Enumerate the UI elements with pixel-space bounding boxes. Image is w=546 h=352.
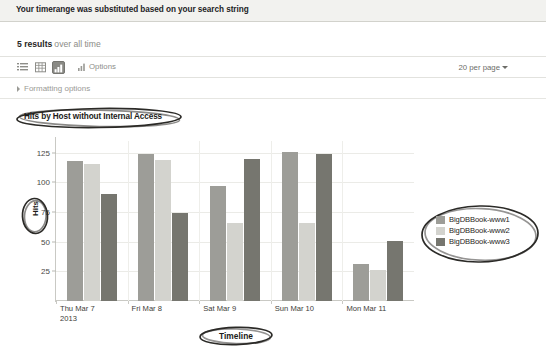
formatting-options-toggle[interactable]: Formatting options bbox=[17, 84, 90, 93]
y-tick-label: 25 bbox=[41, 267, 50, 276]
legend-item[interactable]: BigDBBook-www2 bbox=[436, 225, 510, 236]
list-view-icon[interactable] bbox=[16, 61, 29, 74]
results-count: 5 results bbox=[17, 39, 52, 49]
x-axis-label-cell: Fri Mar 8 bbox=[128, 304, 200, 323]
bar[interactable] bbox=[370, 270, 386, 301]
banner-message: Your timerange was substituted based on … bbox=[16, 5, 249, 14]
bar[interactable] bbox=[84, 164, 100, 301]
page-title: Hits by Host without Internal Access bbox=[24, 112, 162, 121]
bar[interactable] bbox=[138, 154, 154, 301]
options-button[interactable]: Options bbox=[78, 62, 116, 71]
legend-swatch bbox=[436, 238, 445, 246]
timerange-banner: Your timerange was substituted based on … bbox=[0, 0, 546, 22]
bar[interactable] bbox=[67, 161, 83, 301]
bar[interactable] bbox=[210, 186, 226, 301]
bar-chart-plot: 255075100125 bbox=[56, 141, 414, 301]
bar-group bbox=[342, 141, 414, 301]
formatting-divider bbox=[0, 98, 546, 99]
x-axis-label: Thu Mar 7 2013 bbox=[60, 304, 128, 323]
legend-swatch bbox=[436, 216, 445, 224]
x-axis-label: Mon Mar 11 bbox=[346, 304, 414, 314]
bar[interactable] bbox=[387, 241, 403, 301]
x-axis-label-cell: Mon Mar 11 bbox=[342, 304, 414, 323]
x-axis-label: Sat Mar 9 bbox=[203, 304, 271, 314]
bar[interactable] bbox=[155, 160, 171, 301]
table-view-icon[interactable] bbox=[34, 61, 47, 74]
y-tick-label: 100 bbox=[37, 178, 50, 187]
bar[interactable] bbox=[282, 152, 298, 301]
chevron-down-icon bbox=[502, 66, 508, 69]
formatting-options-label: Formatting options bbox=[24, 84, 90, 93]
chart-view-icon[interactable] bbox=[52, 61, 65, 74]
per-page-label: 20 per page bbox=[458, 63, 500, 72]
chart-legend-annotation: BigDBBook-www1BigDBBook-www2BigDBBook-ww… bbox=[419, 201, 541, 267]
x-axis-label: Sun Mar 10 bbox=[275, 304, 343, 314]
xaxis-title-annotation: Timeline bbox=[196, 326, 276, 346]
bar-group bbox=[271, 141, 343, 301]
x-axis-label-cell: Thu Mar 7 2013 bbox=[56, 304, 128, 323]
x-axis-label-cell: Sun Mar 10 bbox=[271, 304, 343, 323]
x-axis-label: Fri Mar 8 bbox=[132, 304, 200, 314]
y-tick-label: 50 bbox=[41, 237, 50, 246]
bar-group bbox=[199, 141, 271, 301]
legend-swatch bbox=[436, 227, 445, 235]
bar-group bbox=[128, 141, 200, 301]
bar[interactable] bbox=[316, 154, 332, 301]
options-label: Options bbox=[89, 62, 116, 71]
legend-label: BigDBBook-www1 bbox=[449, 215, 510, 224]
per-page-dropdown[interactable]: 20 per page bbox=[458, 63, 508, 72]
x-axis-labels: Thu Mar 7 2013Fri Mar 8Sat Mar 9Sun Mar … bbox=[56, 304, 414, 323]
legend-item[interactable]: BigDBBook-www3 bbox=[436, 236, 510, 247]
chart-title-annotation: Hits by Host without Internal Access bbox=[14, 107, 184, 129]
chevron-right-icon bbox=[17, 86, 20, 92]
x-axis-title: Timeline bbox=[196, 331, 276, 341]
y-axis-title: Hits bbox=[31, 197, 40, 221]
bar-groups bbox=[56, 141, 414, 301]
results-summary: 5 resultsover all time bbox=[17, 39, 101, 49]
legend-label: BigDBBook-www3 bbox=[449, 237, 510, 246]
yaxis-title-annotation: Hits bbox=[20, 196, 50, 236]
chart-legend: BigDBBook-www1BigDBBook-www2BigDBBook-ww… bbox=[436, 214, 510, 247]
bar[interactable] bbox=[299, 223, 315, 301]
legend-item[interactable]: BigDBBook-www1 bbox=[436, 214, 510, 225]
bar-group bbox=[56, 141, 128, 301]
results-scope: over all time bbox=[54, 39, 100, 49]
view-mode-group bbox=[16, 61, 65, 74]
bar[interactable] bbox=[244, 159, 260, 301]
legend-label: BigDBBook-www2 bbox=[449, 226, 510, 235]
bar[interactable] bbox=[101, 194, 117, 301]
bar[interactable] bbox=[227, 223, 243, 301]
x-axis-label-cell: Sat Mar 9 bbox=[199, 304, 271, 323]
y-tick-label: 125 bbox=[37, 148, 50, 157]
bar[interactable] bbox=[353, 264, 369, 301]
view-toolbar: Options 20 per page bbox=[0, 56, 546, 78]
options-bars-icon bbox=[78, 63, 86, 71]
bar[interactable] bbox=[172, 213, 188, 301]
